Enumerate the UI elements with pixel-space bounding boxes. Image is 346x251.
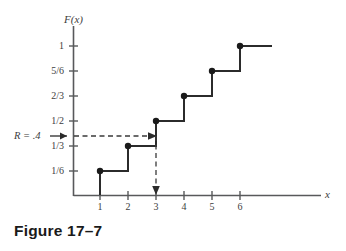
vertical-guide: [152, 136, 160, 195]
data-point-5: [209, 68, 215, 74]
r-pointer-arrowhead: [60, 133, 67, 140]
figure-container: F(x) x 1 5/6 2/3 1/2 1/3 1/6 1 2 3 4 5 6…: [0, 0, 346, 251]
data-point-2: [125, 143, 131, 149]
y-axis-title: F(x): [64, 14, 83, 25]
y-tick-label-5-6: 5/6: [36, 66, 64, 76]
data-point-4: [181, 93, 187, 99]
cdf-step-curve: [100, 46, 272, 195]
x-tick-label-4: 4: [174, 202, 194, 212]
x-axis-title: x: [325, 189, 330, 200]
vertical-guide-arrowhead: [152, 186, 160, 195]
data-point-1: [97, 168, 103, 174]
x-tick-label-3: 3: [146, 202, 166, 212]
x-tick-label-6: 6: [230, 202, 250, 212]
x-tick-label-5: 5: [202, 202, 222, 212]
horizontal-guide: [74, 132, 157, 140]
y-tick-label-1-3: 1/3: [36, 141, 64, 151]
figure-caption: Figure 17–7: [14, 222, 102, 240]
data-point-6: [237, 43, 243, 49]
y-tick-label-2-3: 2/3: [36, 91, 64, 101]
x-tick-label-2: 2: [118, 202, 138, 212]
x-tick-label-1: 1: [90, 202, 110, 212]
y-tick-label-1-6: 1/6: [36, 166, 64, 176]
cdf-data-points: [97, 43, 243, 174]
y-tick-label-1-2: 1/2: [36, 116, 64, 126]
data-point-3: [153, 118, 159, 124]
r-value-label: R = .4: [14, 131, 41, 142]
r-value-pointer: [50, 133, 67, 140]
y-tick-label-1: 1: [36, 41, 64, 51]
